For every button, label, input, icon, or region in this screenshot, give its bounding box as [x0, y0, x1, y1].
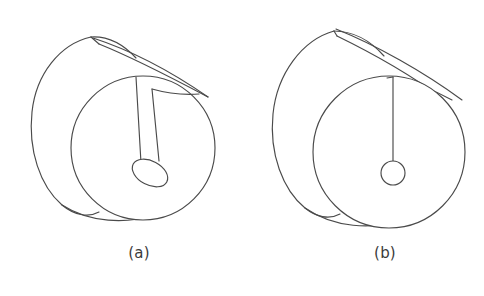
front-end-face-b: [313, 76, 465, 228]
figure-caption-b: (b): [242, 244, 484, 262]
figure-panel-a: (a): [0, 0, 242, 296]
slot-round-hole-b: [381, 161, 405, 185]
front-end-face-a: [71, 76, 215, 220]
figure-caption-a: (a): [0, 244, 242, 262]
figure-panel-b: (b): [242, 0, 484, 296]
upper-silhouette-b: [334, 31, 384, 56]
groove-lower-edge-b: [334, 31, 337, 36]
figure-board: (a): [0, 0, 484, 296]
